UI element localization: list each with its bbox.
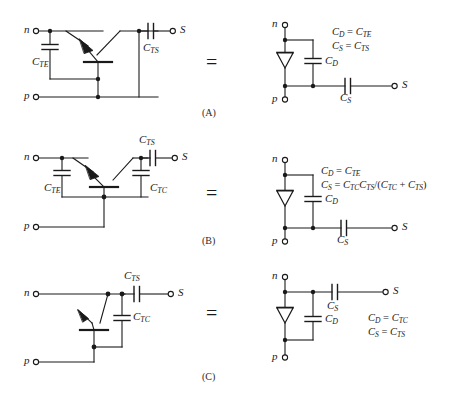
terminal-p-a-left [33, 94, 38, 99]
label-cap-cs-a: CS [340, 92, 351, 103]
label-cap-cte-a: CTE [32, 56, 49, 67]
label-cap-ctc-c: CTC [133, 311, 150, 322]
equation-c-1: CD = CTC [368, 313, 408, 324]
label-terminal-n-c-left: n [24, 287, 30, 298]
label-terminal-n-b-left: n [24, 151, 30, 162]
panel-label-c: (C) [202, 372, 215, 382]
label-terminal-s-a-right: S [402, 79, 408, 90]
equals-sign-c: = [206, 302, 217, 325]
label-terminal-n-a-left: n [24, 24, 30, 35]
panel-label-b: (B) [202, 236, 215, 246]
label-terminal-n-b-right: n [272, 153, 278, 164]
terminal-p-b-left [33, 224, 38, 229]
label-terminal-s-c-left: S [178, 287, 184, 298]
terminal-s-a-right [392, 83, 397, 88]
label-terminal-s-c-right: S [393, 285, 399, 296]
diode-triangle-c-r [277, 308, 293, 323]
label-cap-cs-c: CS [327, 300, 338, 311]
terminal-s-b-left [172, 155, 177, 160]
panel-a-left-circuit [33, 24, 175, 100]
terminal-p-b-right [282, 239, 287, 244]
wire-emitter-base-a [88, 50, 98, 62]
label-cap-cd-b: CD [325, 193, 338, 204]
terminal-n-c-right [282, 274, 287, 279]
label-terminal-n-a-right: n [272, 18, 278, 29]
terminal-s-c-left [168, 291, 173, 296]
panel-c-left-circuit [33, 287, 173, 365]
terminal-s-a-left [170, 28, 175, 33]
circuit-equivalence-figure: n p S CTE CTS n p S CD CS CD = CTE CS = … [0, 0, 453, 394]
label-terminal-p-c-right: p [272, 351, 278, 362]
label-cap-cd-c: CD [325, 313, 338, 324]
wire-collector-c [100, 294, 108, 323]
label-terminal-p-b-left: p [24, 220, 30, 231]
diode-triangle-b-r [277, 191, 293, 206]
wire-collector-a [97, 31, 120, 55]
equation-a-2: CS = CTS [332, 41, 369, 52]
diode-triangle-a-r [277, 53, 293, 68]
label-cap-cd-a: CD [325, 55, 338, 66]
terminal-n-c-left [33, 291, 38, 296]
terminal-p-c-left [33, 359, 38, 364]
terminal-n-b-right [282, 157, 287, 162]
equation-a-1: CD = CTE [332, 27, 371, 38]
terminal-s-c-right [383, 289, 388, 294]
equation-c-2: CS = CTS [368, 327, 405, 338]
equals-sign-a: = [206, 51, 217, 74]
label-cap-cts-b: CTS [139, 134, 155, 145]
label-terminal-p-a-left: p [24, 90, 30, 101]
equation-b-1: CD = CTE [321, 166, 360, 177]
label-cap-cts-c: CTS [124, 270, 140, 281]
label-terminal-n-c-right: n [272, 270, 278, 281]
label-cap-cts-a: CTS [143, 42, 159, 53]
transistor-emitter-arrow-b [86, 166, 100, 180]
terminal-p-c-right [282, 355, 287, 360]
wire-emitter-base-b [93, 176, 104, 187]
terminal-n-a-right [282, 22, 287, 27]
terminal-n-b-left [33, 155, 38, 160]
transistor-emitter-arrow-c [78, 310, 89, 322]
junction-dot [96, 95, 100, 99]
label-terminal-p-a-right: p [272, 93, 278, 104]
terminal-n-a-left [33, 28, 38, 33]
terminal-p-a-right [282, 97, 287, 102]
bottom-caption-fragment [18, 387, 438, 394]
label-terminal-s-b-left: S [182, 151, 188, 162]
wire-collector-b [113, 158, 133, 180]
label-terminal-s-a-left: S [180, 24, 186, 35]
panel-label-a: (A) [202, 108, 216, 118]
label-cap-cs-b: CS [337, 234, 348, 245]
terminal-s-b-right [392, 225, 397, 230]
label-terminal-p-b-right: p [272, 235, 278, 246]
label-terminal-s-b-right: S [402, 221, 408, 232]
label-terminal-p-c-left: p [24, 355, 30, 366]
transistor-emitter-arrow-a [80, 39, 94, 54]
equals-sign-b: = [206, 182, 217, 205]
equation-b-2: CS = CTCCTS/(CTC + CTS) [321, 180, 427, 191]
label-cap-ctc-b: CTC [150, 182, 167, 193]
label-cap-cte-b: CTE [44, 182, 61, 193]
